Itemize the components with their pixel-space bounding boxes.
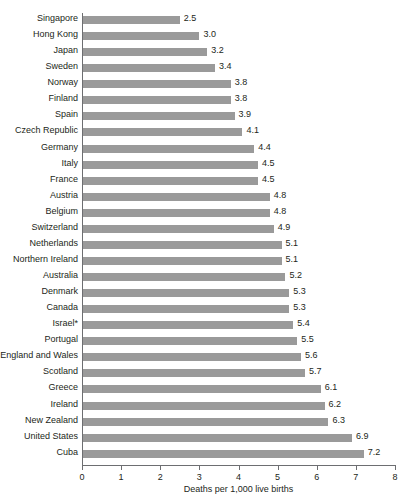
category-label: Greece — [48, 381, 78, 393]
bar-value-label: 5.3 — [293, 301, 306, 313]
infant-mortality-bar-chart: Singapore2.5Hong Kong3.0Japan3.2Sweden3.… — [0, 0, 416, 499]
x-tick-label: 5 — [268, 472, 288, 483]
x-tick-label: 8 — [385, 472, 405, 483]
bar-row: Sweden3.4 — [82, 61, 395, 77]
bar-row: Cuba7.2 — [82, 447, 395, 463]
category-label: Canada — [46, 301, 78, 313]
bar-value-label: 4.1 — [246, 124, 259, 136]
x-tick — [160, 465, 161, 470]
x-tick — [199, 465, 200, 470]
bar — [82, 369, 305, 377]
bar-value-label: 5.1 — [286, 237, 299, 249]
bar-row: Israel*5.4 — [82, 318, 395, 334]
bar — [82, 241, 282, 249]
bar — [82, 353, 301, 361]
bar-row: Belgium4.8 — [82, 206, 395, 222]
bar-row: Italy4.5 — [82, 158, 395, 174]
category-label: Ireland — [50, 398, 78, 410]
category-label: Czech Republic — [15, 124, 78, 136]
bar — [82, 145, 254, 153]
bar — [82, 289, 289, 297]
category-label: Scotland — [43, 365, 78, 377]
bar-value-label: 5.3 — [293, 285, 306, 297]
bar — [82, 32, 199, 40]
category-label: Denmark — [41, 285, 78, 297]
bar-value-label: 4.8 — [274, 189, 287, 201]
bar-row: Switzerland4.9 — [82, 222, 395, 238]
category-label: Italy — [61, 157, 78, 169]
bar — [82, 402, 325, 410]
bar — [82, 273, 285, 281]
x-tick-label: 3 — [189, 472, 209, 483]
bar — [82, 209, 270, 217]
category-label: Norway — [47, 76, 78, 88]
category-label: Germany — [41, 141, 78, 153]
x-tick — [82, 465, 83, 470]
bar-value-label: 3.0 — [203, 28, 216, 40]
bar-row: Germany4.4 — [82, 142, 395, 158]
bar-value-label: 5.7 — [309, 365, 322, 377]
x-axis-title: Deaths per 1,000 live births — [82, 484, 395, 495]
bar — [82, 418, 328, 426]
bar-row: Singapore2.5 — [82, 13, 395, 29]
bar-row: Norway3.8 — [82, 77, 395, 93]
bar — [82, 161, 258, 169]
bar-row: Canada5.3 — [82, 302, 395, 318]
bar-value-label: 3.4 — [219, 60, 232, 72]
bar — [82, 321, 293, 329]
bar-value-label: 5.1 — [286, 253, 299, 265]
bar — [82, 450, 364, 458]
category-label: Sweden — [45, 60, 78, 72]
y-axis-line — [82, 13, 83, 465]
bar — [82, 96, 231, 104]
bar-value-label: 5.6 — [305, 349, 318, 361]
bar-value-label: 3.9 — [239, 108, 252, 120]
category-label: England and Wales — [0, 349, 78, 361]
x-tick-label: 2 — [150, 472, 170, 483]
category-label: Northern Ireland — [13, 253, 78, 265]
bar-row: France4.5 — [82, 174, 395, 190]
bar-row: Northern Ireland5.1 — [82, 254, 395, 270]
bar — [82, 305, 289, 313]
x-tick-label: 7 — [346, 472, 366, 483]
x-tick-label: 1 — [111, 472, 131, 483]
category-label: Singapore — [37, 12, 78, 24]
bar-row: New Zealand6.3 — [82, 415, 395, 431]
plot-area: Singapore2.5Hong Kong3.0Japan3.2Sweden3.… — [82, 13, 395, 465]
bar-row: Czech Republic4.1 — [82, 125, 395, 141]
bar-value-label: 4.4 — [258, 141, 271, 153]
bar — [82, 385, 321, 393]
bar-row: Austria4.8 — [82, 190, 395, 206]
bar-value-label: 6.3 — [332, 414, 345, 426]
category-label: Portugal — [44, 333, 78, 345]
category-label: France — [50, 173, 78, 185]
x-tick — [121, 465, 122, 470]
bar-row: Australia5.2 — [82, 270, 395, 286]
x-tick — [317, 465, 318, 470]
bar — [82, 112, 235, 120]
bar — [82, 337, 297, 345]
bar-value-label: 6.2 — [329, 398, 342, 410]
x-tick — [356, 465, 357, 470]
category-label: Australia — [43, 269, 78, 281]
bar-value-label: 5.5 — [301, 333, 314, 345]
bar — [82, 64, 215, 72]
bar-value-label: 3.8 — [235, 76, 248, 88]
bar-value-label: 3.8 — [235, 92, 248, 104]
x-tick — [278, 465, 279, 470]
bar-row: Ireland6.2 — [82, 399, 395, 415]
x-tick — [395, 465, 396, 470]
bar-row: Finland3.8 — [82, 93, 395, 109]
x-tick-label: 0 — [72, 472, 92, 483]
bar — [82, 225, 274, 233]
bar-value-label: 4.5 — [262, 173, 275, 185]
bar — [82, 177, 258, 185]
bar-row: Spain3.9 — [82, 109, 395, 125]
bar-row: Hong Kong3.0 — [82, 29, 395, 45]
category-label: Hong Kong — [33, 28, 78, 40]
bar — [82, 16, 180, 24]
bar — [82, 257, 282, 265]
bar-row: England and Wales5.6 — [82, 350, 395, 366]
bar-row: United States6.9 — [82, 431, 395, 447]
bar-value-label: 4.9 — [278, 221, 291, 233]
